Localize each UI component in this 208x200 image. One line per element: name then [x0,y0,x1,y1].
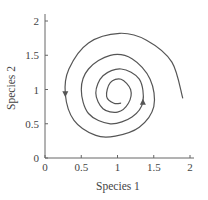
y-axis-label: Species 2 [5,66,18,110]
x-tick-label: 0.5 [74,161,88,173]
y-tick-label: 1 [34,84,40,96]
y-tick-label: 1.5 [25,49,39,61]
plot-area [62,33,183,137]
x-tick-label: 1 [115,161,121,173]
arrow-up-icon [140,99,146,105]
x-tick-label: 1.5 [147,161,161,173]
y-tick-label: 2 [34,15,40,27]
y-tick-label: 0.5 [25,118,39,130]
phase-portrait-chart: 00.511.52 00.511.52 Species 1 Species 2 [0,0,208,200]
x-axis-label: Species 1 [96,180,140,193]
x-tick-label: 2 [187,161,193,173]
y-tick-label: 0 [34,152,40,164]
axes [45,14,194,158]
spiral-trajectory [65,33,183,137]
arrow-down-icon [62,91,68,97]
x-tick-label: 0 [42,161,48,173]
